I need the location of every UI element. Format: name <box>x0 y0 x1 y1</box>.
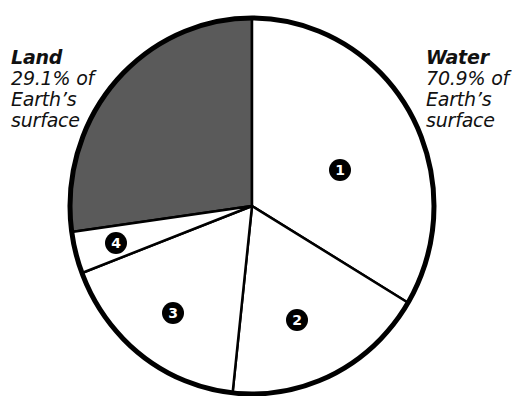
water-line-3: surface <box>426 110 509 131</box>
land-label: Land 29.1% of Earth’s surface <box>11 47 94 131</box>
water-title: Water <box>426 47 509 68</box>
marker-4-label: 4 <box>111 235 121 251</box>
land-title: Land <box>11 47 94 68</box>
water-line-2: Earth’s <box>426 89 509 110</box>
water-label: Water 70.9% of Earth’s surface <box>426 47 509 131</box>
land-line-1: 29.1% of <box>11 68 94 89</box>
water-line-1: 70.9% of <box>426 68 509 89</box>
marker-3-label: 3 <box>168 305 178 321</box>
land-line-3: surface <box>11 110 94 131</box>
marker-1-label: 1 <box>335 162 345 178</box>
marker-2-label: 2 <box>292 312 302 328</box>
land-line-2: Earth’s <box>11 89 94 110</box>
slice-land <box>70 18 252 232</box>
